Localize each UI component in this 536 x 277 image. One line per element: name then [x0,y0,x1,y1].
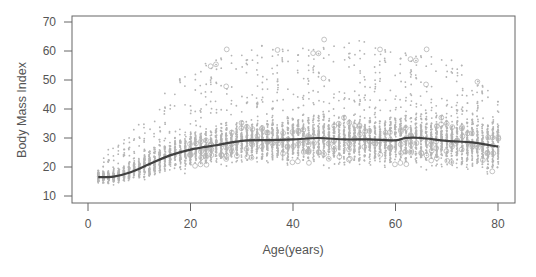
data-point [241,161,243,163]
data-point [436,126,438,128]
data-point [241,159,243,161]
data-point [200,157,202,159]
data-point [138,177,140,179]
data-point [405,124,407,126]
data-point [235,128,237,130]
data-point [292,150,294,152]
data-point [461,128,463,130]
data-point [292,141,294,143]
data-point [302,144,304,146]
data-point [317,141,319,143]
data-point [492,133,494,135]
data-point [379,60,381,62]
data-point [174,146,176,148]
data-point [256,135,258,137]
data-point [226,122,228,124]
data-point [445,123,447,125]
data-point [138,145,140,147]
data-point [404,52,406,54]
data-point [374,155,376,157]
data-point [282,143,284,145]
data-point [102,181,104,183]
data-point [436,121,438,123]
data-point [472,121,474,123]
data-point [420,124,422,126]
data-point [333,126,335,128]
data-point [343,119,345,121]
data-point [431,109,433,111]
data-point [415,153,417,155]
data-point [257,147,259,149]
data-point [491,165,493,167]
data-point [272,115,274,117]
data-point [431,122,433,124]
data-point [169,161,171,163]
y-tick-label: 20 [43,160,57,174]
data-point [389,135,391,137]
data-point [190,105,192,107]
data-point [199,85,201,87]
data-point [117,162,119,164]
data-point [220,141,222,143]
data-point [323,117,325,119]
data-point [205,83,207,85]
data-point [482,85,484,87]
data-point [235,68,237,70]
data-point [457,117,459,119]
data-point [497,136,499,138]
data-point [298,147,300,149]
data-point [210,112,212,114]
data-point [318,146,320,148]
data-point [343,107,345,109]
data-point [230,155,232,157]
data-point [492,116,494,118]
data-point [426,118,428,120]
data-point [379,109,381,111]
data-point [415,60,417,62]
data-point [436,160,438,162]
data-point [410,117,412,119]
data-point [180,163,182,165]
data-point [364,160,366,162]
data-point [446,142,448,144]
data-point [322,132,324,134]
data-point [312,90,314,92]
data-point [241,126,243,128]
data-point [246,128,248,130]
data-point [369,86,371,88]
data-point [487,161,489,163]
data-point [287,164,289,166]
data-point [420,150,422,152]
data-point [298,119,300,121]
data-point [169,132,171,134]
data-point [436,147,438,149]
data-point [333,108,335,110]
data-point [482,163,484,165]
data-point [476,102,478,104]
data-point [405,54,407,56]
data-point [240,134,242,136]
data-point [457,75,459,77]
data-point [308,69,310,71]
data-point [456,102,458,104]
data-point [338,142,340,144]
data-point [348,122,350,124]
data-point [323,143,325,145]
data-point [307,157,309,159]
data-point [384,127,386,129]
data-point [472,94,474,96]
data-point [445,155,447,157]
data-point [482,134,484,136]
data-point [144,155,146,157]
data-point [124,149,126,151]
data-point [389,157,391,159]
data-point [466,145,468,147]
data-point [256,161,258,163]
data-point [267,142,269,144]
data-point [395,156,397,158]
data-point [457,109,459,111]
data-point [200,152,202,154]
data-point [216,158,218,160]
data-point [374,47,376,49]
data-point [169,164,171,166]
